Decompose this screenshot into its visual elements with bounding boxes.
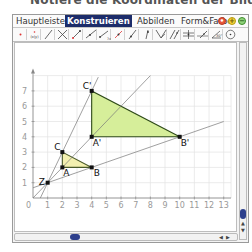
segment-length-tool[interactable]: 7cm (98, 29, 111, 40)
geometry-app-window: Hauptleiste Konstruieren Abbilden Form&F… (12, 14, 249, 243)
instruction-text: Notiere die Koordinaten der Bildpunkte. (30, 0, 252, 7)
x-tick-label: 5 (104, 201, 109, 210)
x-tick-label: 10 (175, 201, 185, 210)
point-tool[interactable] (14, 29, 27, 40)
scroll-right-icon[interactable]: ▶ (226, 235, 230, 240)
y-tick-label: 6 (22, 102, 27, 111)
parallel-tool[interactable] (168, 29, 181, 40)
point-on-line-icon (126, 29, 139, 40)
point-label: Z (39, 177, 45, 187)
angle-icon: 30° (210, 29, 223, 40)
y-tick-label: 5 (22, 118, 27, 127)
symmetry-tool[interactable] (182, 29, 195, 40)
point-c[interactable] (60, 150, 64, 154)
circle-icon (224, 29, 237, 40)
point-label: A (63, 168, 70, 178)
x-tick-label: 11 (189, 201, 199, 210)
scroll-up-icon[interactable]: ▲ (241, 221, 245, 226)
symmetry-icon (182, 29, 195, 40)
x-tick-label: 3 (74, 201, 79, 210)
angle-tool[interactable]: 30° (210, 29, 223, 40)
coordinates-icon: (x|y) (28, 29, 41, 40)
y-tick-label: 3 (22, 148, 27, 157)
x-tick-label: 4 (89, 201, 94, 210)
point-label: C (54, 142, 60, 152)
intersection-icon (56, 29, 69, 40)
horizontal-scroll-thumb[interactable] (70, 234, 80, 240)
svg-text:30°: 30° (216, 34, 222, 38)
segment-length-icon: 7cm (98, 29, 111, 40)
horizontal-scrollbar[interactable]: ◀ ▶ (14, 233, 238, 241)
perpendicular-icon (140, 29, 153, 40)
intersection-tool[interactable] (56, 29, 69, 40)
x-tick-label: 12 (204, 201, 214, 210)
point-label: B' (181, 138, 190, 148)
angle-bisector-tool[interactable] (154, 29, 167, 40)
svg-text:(x|y): (x|y) (30, 35, 39, 39)
coordinate-point-tool[interactable]: (x|y) (28, 29, 41, 40)
plus-icon[interactable]: + (228, 17, 236, 25)
scroll-down-icon[interactable]: ▼ (241, 228, 245, 233)
angle-bisector-icon (154, 29, 167, 40)
x-tick-label: 6 (118, 201, 123, 210)
line-tool[interactable] (42, 29, 55, 40)
x-tick-label: 8 (148, 201, 153, 210)
perpendicular-tool[interactable] (140, 29, 153, 40)
segment-icon (70, 29, 83, 40)
midpoint-tool[interactable] (112, 29, 125, 40)
svg-text:7cm: 7cm (107, 37, 111, 41)
line-zcp[interactable] (40, 77, 98, 198)
y-tick-label: 1 (22, 179, 27, 188)
tab-abbilden[interactable]: Abbilden (135, 15, 177, 27)
y-tick-label: 2 (22, 163, 27, 172)
circle-tool[interactable] (224, 29, 237, 40)
x-tick-label: 2 (60, 201, 65, 210)
tab-konstruieren[interactable]: Konstruieren (65, 15, 132, 27)
midpoint-icon (112, 29, 125, 40)
x-tick-label: 7 (133, 201, 138, 210)
y-axis-arrow-icon (31, 69, 35, 74)
x-tick-label: 9 (162, 201, 167, 210)
segment-tool[interactable] (70, 29, 83, 40)
point-on-line-tool[interactable] (126, 29, 139, 40)
x-tick-label: 1 (45, 201, 50, 210)
coordinate-plane[interactable]: 0123456789101112131234567ZABCA'B'C' (15, 43, 237, 232)
vertical-scrollbar[interactable]: ▲ ▼ (239, 42, 247, 240)
point-label: A' (93, 138, 102, 148)
menu-tab-bar: Hauptleiste Konstruieren Abbilden Form&F… (13, 15, 248, 28)
parallel-icon (168, 29, 181, 40)
y-tick-label: 4 (22, 133, 27, 142)
drawing-canvas[interactable]: 0123456789101112131234567ZABCA'B'C' (14, 42, 237, 232)
point-icon (14, 29, 27, 40)
tab-hauptleiste[interactable]: Hauptleiste (14, 15, 67, 27)
minus-icon[interactable]: − (238, 17, 246, 25)
ray-icon (84, 29, 97, 40)
close-icon[interactable]: • (218, 17, 226, 25)
vector-tool[interactable] (196, 29, 209, 40)
point-label: C' (83, 81, 92, 91)
ray-tool[interactable] (84, 29, 97, 40)
vector-icon (196, 29, 209, 40)
point-label: B (94, 168, 100, 178)
point-z[interactable] (46, 181, 50, 185)
x-tick-label: 0 (26, 201, 31, 210)
y-tick-label: 7 (22, 87, 27, 96)
vertical-scroll-thumb[interactable] (240, 209, 246, 219)
x-tick-label: 13 (219, 201, 229, 210)
construction-toolbar: (x|y) 7cm (13, 28, 248, 42)
scroll-left-icon[interactable]: ◀ (219, 235, 223, 240)
tab-form-farbe[interactable]: Form&Farbe (179, 15, 235, 27)
line-icon (42, 29, 55, 40)
